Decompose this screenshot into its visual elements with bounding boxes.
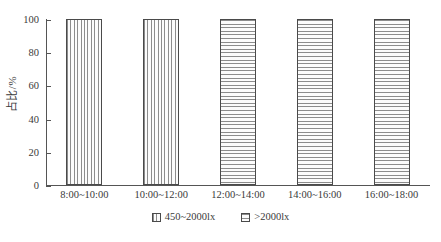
bar [297,19,333,185]
legend-swatch-icon [241,213,250,222]
bar [143,19,179,185]
legend-item: >2000lx [241,212,289,223]
y-axis-tick-label: 60 [29,81,40,92]
legend-swatch-icon [152,213,161,222]
x-axis-tick-label: 16:00~18:00 [365,190,419,201]
bar [66,19,102,185]
bar [374,19,410,185]
x-axis-tick-label: 8:00~10:00 [60,190,108,201]
x-axis-line [46,185,430,186]
y-axis-title: 占比/% [3,62,19,126]
x-axis-tick-label: 12:00~14:00 [211,190,265,201]
bar-chart-figure: 占比/% 020406080100 8:00~10:0010:00~12:001… [0,0,441,242]
y-axis-tick-mark [46,86,51,87]
y-axis-tick-label: 40 [29,114,40,125]
plot-area: 020406080100 [46,19,430,186]
legend-label: >2000lx [254,212,289,223]
y-axis-line [46,19,47,186]
y-axis-tick-label: 80 [29,48,40,59]
y-axis-tick-mark [46,153,51,154]
y-axis-tick-label: 20 [29,148,40,159]
y-axis-tick-label: 0 [34,181,39,192]
x-axis-tick-label: 10:00~12:00 [134,190,188,201]
y-axis-tick-mark [46,186,51,187]
bar [220,19,256,185]
y-axis-tick-mark [46,20,51,21]
legend-item: 450~2000lx [152,212,216,223]
y-axis-tick-mark [46,120,51,121]
y-axis-tick-label: 100 [23,15,39,26]
x-axis-tick-label: 14:00~16:00 [288,190,342,201]
chart-legend: 450~2000lx>2000lx [0,212,441,223]
legend-label: 450~2000lx [165,212,216,223]
y-axis-tick-mark [46,53,51,54]
